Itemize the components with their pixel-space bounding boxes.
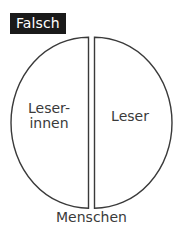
segment-label-right-line1: Leser: [111, 108, 149, 124]
segment-label-left: Leser- innen: [14, 101, 84, 131]
status-badge: Falsch: [10, 13, 66, 34]
split-circle-figure: Falsch Leser- innen Leser Menschen: [0, 0, 183, 248]
segment-label-right: Leser: [95, 109, 165, 124]
segment-label-left-line2: innen: [14, 116, 84, 131]
figure-caption: Menschen: [0, 208, 183, 226]
segment-label-left-line1: Leser-: [28, 100, 70, 116]
